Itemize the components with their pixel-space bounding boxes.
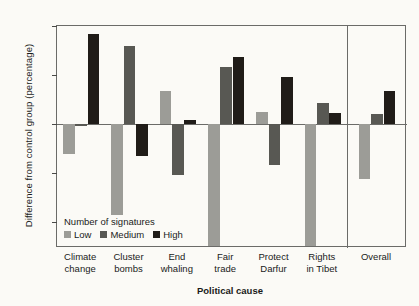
bar	[136, 124, 148, 155]
bar	[88, 34, 100, 124]
legend-swatch	[64, 231, 71, 238]
y-tick-mark	[52, 173, 57, 174]
legend-label: High	[163, 229, 183, 240]
bar	[317, 103, 329, 125]
bar	[111, 124, 123, 214]
y-tick-mark	[52, 222, 57, 223]
bar	[172, 124, 184, 175]
bar	[63, 124, 75, 153]
bar	[184, 120, 196, 124]
bar	[233, 57, 245, 124]
plot-area: 5.02.50−2.5−5.0	[56, 25, 406, 247]
x-axis-title: Political cause	[55, 285, 405, 296]
y-axis-title: Difference from control group (percentag…	[23, 6, 34, 266]
legend-label: Medium	[110, 229, 144, 240]
legend-entry: Medium	[100, 229, 144, 240]
bar	[329, 113, 341, 124]
legend-entry: Low	[64, 229, 91, 240]
overall-panel-divider	[347, 26, 348, 248]
y-tick-mark	[52, 26, 57, 27]
bar	[384, 91, 396, 124]
bar	[160, 91, 172, 124]
bar	[359, 124, 371, 179]
x-tick-label-line: Overall	[342, 251, 410, 263]
bar	[208, 124, 220, 246]
chart-figure: Difference from control group (percentag…	[0, 0, 419, 306]
x-tick-label-line: in Tibet	[288, 263, 356, 275]
bar	[269, 124, 281, 165]
bar	[305, 124, 317, 246]
bar	[371, 114, 383, 124]
legend: Number of signatures LowMediumHigh	[64, 216, 183, 240]
legend-entry: High	[153, 229, 183, 240]
legend-swatch	[100, 231, 107, 238]
legend-title: Number of signatures	[64, 216, 183, 227]
bar	[75, 124, 87, 126]
x-tick-label: Overall	[342, 251, 410, 263]
legend-swatch	[153, 231, 160, 238]
y-tick-mark	[52, 124, 57, 125]
bar	[281, 77, 293, 124]
bar	[220, 67, 232, 124]
bar	[124, 46, 136, 125]
legend-entries: LowMediumHigh	[64, 229, 183, 240]
bar	[256, 112, 268, 124]
zero-baseline	[57, 124, 407, 125]
legend-label: Low	[74, 229, 91, 240]
y-tick-mark	[52, 75, 57, 76]
